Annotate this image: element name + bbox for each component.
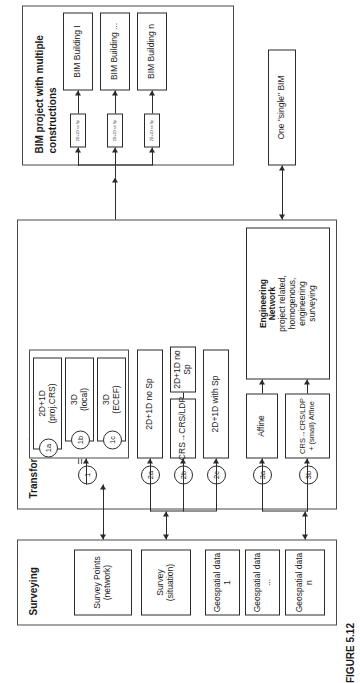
figure-caption: FIGURE 5.12	[345, 623, 356, 683]
arrow-head-left	[100, 534, 106, 539]
box-sublabel: (ECEF)	[112, 385, 122, 413]
arrow-head-right	[180, 458, 186, 463]
arrow-head-left	[279, 214, 285, 219]
marker-1c: 1c	[103, 430, 122, 449]
arrow-head-right	[149, 147, 155, 152]
arrow-head-right	[75, 147, 81, 152]
surveying-item-geospatial-1: Geospatial data 1	[205, 549, 240, 615]
connector-2b-stub	[183, 458, 184, 511]
connector-3b-stub	[307, 458, 308, 511]
box-sublabel: (local)	[80, 387, 90, 410]
box-sublabel: (proj.CRS)	[48, 383, 58, 423]
transformation-box-3b: CRS→CRS/LDP + (small) Affine	[285, 393, 330, 458]
surveying-item-geospatial-n: Geospatial data n	[285, 549, 325, 615]
box-label: Affine	[257, 415, 267, 437]
arrow-head-right	[75, 90, 81, 95]
arrow-head-right	[213, 458, 219, 463]
surveying-item-sublabel: (network)	[103, 564, 113, 599]
arrow-head-right	[149, 90, 155, 95]
arrow-head-right	[304, 379, 310, 384]
surveying-item-label: Geospatial data ...	[253, 550, 273, 614]
arrow-head-right	[279, 165, 285, 170]
marker-1b: 1b	[71, 430, 90, 449]
box-label: CRS→CRS/LDP	[178, 396, 188, 459]
bim-building-label: BIM Building I	[73, 25, 83, 77]
marker-1: 1	[78, 465, 97, 484]
surveying-item-survey: Survey (situation)	[141, 549, 191, 615]
arrow-head-right	[100, 484, 106, 489]
arrow-head-right	[112, 147, 118, 152]
box-label: 2D+1D no Sp	[145, 378, 155, 429]
connector-transformation-to-bim	[115, 177, 116, 219]
connector-bim-bus-entry	[115, 165, 116, 177]
bim-transfer-box-1: 2D+1D no Sp	[70, 113, 86, 147]
box-sublabel: 2D+1D no Sp	[173, 347, 193, 391]
arrow-head-right	[112, 177, 118, 182]
bim-transfer-label: 2D+1D no Sp	[150, 119, 154, 141]
transformation-box-2c: 2D+1D with Sp	[203, 349, 229, 458]
one-single-bim-box: One "single" BIM	[268, 49, 296, 165]
transformation-box-3a: Affine	[246, 393, 278, 458]
transformation-box-2b-sub: 2D+1D no Sp	[170, 346, 196, 392]
surveying-item-label: Geospatial data n	[295, 550, 315, 614]
bim-building-n: BIM Building n	[137, 12, 167, 90]
box-label: 2D+1D with Sp	[211, 375, 221, 432]
arrow-head-left	[302, 534, 308, 539]
arrow-head-right	[259, 458, 265, 463]
connector-2b-sub	[183, 392, 184, 398]
arrow-head-right	[163, 511, 169, 516]
bim-building-dots: BIM Building ...	[100, 12, 130, 90]
arrow-head-right	[302, 511, 308, 516]
arrow-head-right	[304, 458, 310, 463]
bim-building-label: BIM Building n	[147, 24, 157, 79]
bim-transfer-box-2: 2D+1D no Sp	[107, 113, 123, 147]
arrow-head-right	[112, 90, 118, 95]
arrow-head-right	[147, 458, 153, 463]
surveying-item-label: Geospatial data 1	[213, 550, 233, 614]
bim-transfer-box-3: 2D+1D no Sp	[144, 113, 160, 147]
transformation-box-1b: 3D (local)	[65, 357, 94, 441]
bim-transfer-label: 2D+1D no Sp	[76, 119, 80, 141]
bim-project-title-line1: BIM project with multiple constructions	[34, 13, 59, 153]
marker-1a: 1a	[39, 438, 58, 457]
connector-transformation-to-single-bim	[282, 165, 283, 219]
arrow-head-left	[163, 534, 169, 539]
one-single-bim-label: One "single" BIM	[277, 75, 287, 139]
connector-bus-3	[262, 510, 308, 511]
transformation-box-1c: 3D (ECEF)	[97, 357, 126, 441]
surveying-item-geospatial-dots: Geospatial data ...	[245, 549, 280, 615]
transformation-box-2b: CRS→CRS/LDP	[170, 398, 196, 458]
engineering-network-desc-4: surveying	[308, 285, 318, 321]
surveying-item-sublabel: (situation)	[166, 563, 176, 600]
transformation-box-2a: 2D+1D no Sp	[137, 349, 163, 458]
bim-transfer-label: 2D+1D no Sp	[113, 119, 117, 141]
connector-2c-stub	[216, 458, 217, 511]
connector-survey-points	[103, 484, 104, 539]
marker-3b: 3b	[299, 465, 318, 484]
surveying-item-survey-points: Survey Points (network)	[74, 549, 132, 615]
transformation-box-1a: 2D+1D (proj.CRS)	[33, 357, 62, 449]
bim-building-label: BIM Building ...	[110, 22, 120, 79]
bim-building-1: BIM Building I	[63, 12, 93, 90]
connector-2a-stub	[150, 458, 151, 511]
arrow-head-right	[83, 458, 89, 463]
connector-3a-stub	[262, 458, 263, 511]
box-label: CRS→CRS/LDP + (small) Affine	[299, 394, 316, 457]
engineering-network-box: Engineering Network project related, hom…	[246, 227, 330, 379]
arrow-head-right	[259, 379, 265, 384]
surveying-title: Surveying	[28, 567, 39, 615]
